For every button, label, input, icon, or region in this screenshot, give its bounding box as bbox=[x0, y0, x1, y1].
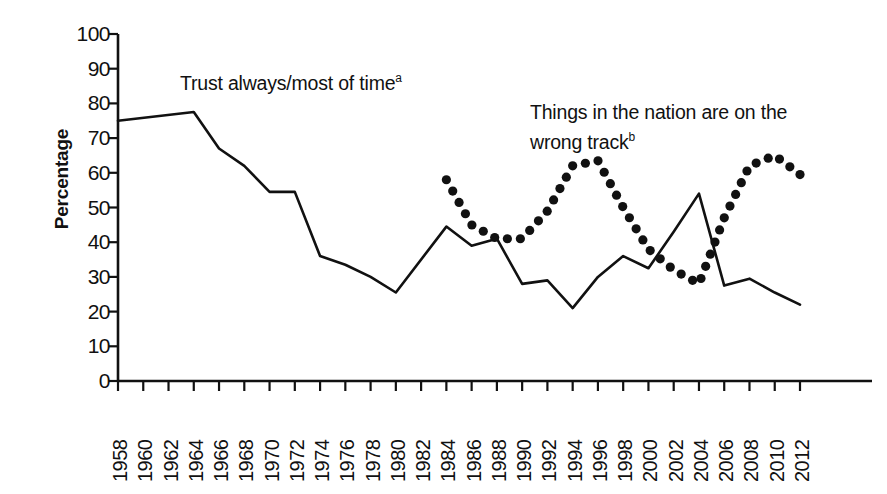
annotation-wrong-track-label: Things in the nation are on thewrong tra… bbox=[530, 100, 787, 155]
annotation-trust-label: Trust always/most of timea bbox=[180, 66, 402, 96]
chart-figure: Percentage 1009080706050403020100 195819… bbox=[0, 0, 887, 494]
plot-area bbox=[0, 0, 887, 494]
series-wrong-track-dots bbox=[442, 154, 805, 285]
